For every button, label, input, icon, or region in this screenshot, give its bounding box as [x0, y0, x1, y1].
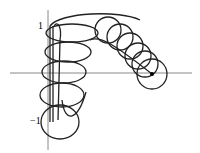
- axes: [10, 10, 192, 150]
- end-point-dot: [150, 72, 154, 76]
- curve: [40, 14, 167, 139]
- ytick-label-top: 1: [38, 20, 43, 31]
- ytick-label-bottom: −1: [30, 115, 41, 126]
- parametric-plot: 1 −1: [0, 0, 200, 153]
- plot-canvas: [0, 0, 200, 153]
